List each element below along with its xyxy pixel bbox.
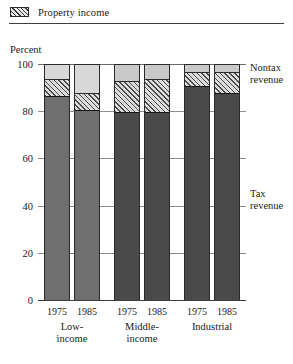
x-group-label-industrial: Industrial [172,321,252,333]
group-label-line2: income [102,333,182,345]
segment-tax-revenue [145,112,169,300]
group-label-line1: Middle- [102,321,182,333]
segment-tax-revenue [215,93,239,300]
y-tick-label-0: 0 [28,295,33,306]
segment-nontax-revenue [75,65,99,93]
y-tick-label-60: 60 [23,153,34,164]
callout-tax-line1: Tax [250,188,283,200]
y-tick-label-20: 20 [23,247,34,258]
segment-nontax-revenue [45,65,69,79]
segment-property-income [45,79,69,95]
x-axis-labels: 197519851975198519751985Low-incomeMiddle… [38,303,246,361]
segment-tax-revenue [45,96,69,300]
bar-middle-income-1985 [144,64,170,300]
x-tick-year-5: 1985 [207,306,247,317]
chart-legend: Property income [10,5,109,19]
property-income-swatch-icon [10,7,29,17]
y-axis-title: Percent [10,44,42,55]
bar-middle-income-1975 [114,64,140,300]
stacked-bar-chart-figure: Property income Percent 0 20 40 60 80 10… [0,0,293,364]
callout-tax-revenue: Tax revenue [250,188,283,212]
plot-area: 0 20 40 60 80 100 Nontax revenue Tax rev… [38,64,246,300]
x-group-label-low-income: Low-income [32,321,112,345]
legend-divider [9,23,284,24]
segment-nontax-revenue [145,65,169,79]
group-label-line1: Low- [32,321,112,333]
segment-tax-revenue [75,110,99,300]
y-tick-label-100: 100 [17,59,33,70]
segment-property-income [75,93,99,109]
callout-nontax-revenue: Nontax revenue [250,62,283,86]
legend-label-property-income: Property income [38,7,109,18]
x-tick-year-1: 1985 [67,306,107,317]
bar-low-income-1975 [44,64,70,300]
segment-nontax-revenue [115,65,139,81]
y-tick-label-80: 80 [23,106,34,117]
callout-tax-line2: revenue [250,200,283,212]
group-label-line1: Industrial [172,321,252,333]
bar-low-income-1985 [74,64,100,300]
segment-tax-revenue [185,86,209,300]
segment-property-income [145,79,169,112]
y-tick-label-40: 40 [23,200,34,211]
segment-nontax-revenue [215,65,239,72]
callout-nontax-line2: revenue [250,74,283,86]
segment-nontax-revenue [185,65,209,72]
bar-industrial-1975 [184,64,210,300]
segment-property-income [115,81,139,112]
segment-tax-revenue [115,112,139,300]
callout-nontax-line1: Nontax [250,62,283,74]
group-label-line2: income [32,333,112,345]
x-tick-year-3: 1985 [137,306,177,317]
bar-industrial-1985 [214,64,240,300]
segment-property-income [215,72,239,93]
x-group-label-middle-income: Middle-income [102,321,182,345]
gridline-0: 0 [38,300,246,301]
segment-property-income [185,72,209,86]
